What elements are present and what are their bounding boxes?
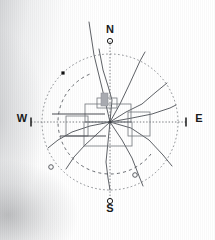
branch-ne [110, 83, 167, 122]
shaded-block [101, 93, 108, 106]
branch-ene [110, 105, 176, 122]
marker-open-circle-right [133, 173, 138, 178]
cardinal-label-north: N [106, 23, 114, 35]
branch-s [106, 122, 110, 190]
cardinal-label-west: W [17, 112, 28, 124]
branch-north-long [89, 22, 110, 122]
branch-wsw [48, 122, 110, 148]
cardinal-label-east: E [195, 112, 202, 124]
data-markers [49, 71, 138, 177]
figure-root: N S E W [0, 0, 215, 240]
marker-open-circle-left [49, 165, 54, 170]
branch-ese [110, 122, 172, 166]
compass-diagram: N S E W [0, 0, 215, 240]
center-node [108, 120, 111, 123]
marker-filled-square [61, 71, 64, 74]
cardinal-label-south: S [106, 202, 113, 214]
branch-se [110, 122, 143, 186]
radial-branch-network [48, 22, 176, 190]
